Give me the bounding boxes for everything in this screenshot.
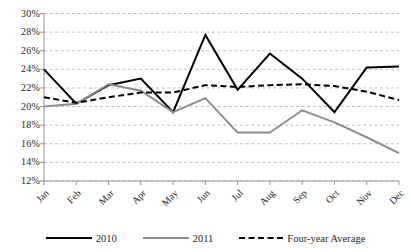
legend-swatch-four-year-average [239,237,283,239]
legend-item-2010: 2010 [46,233,117,244]
legend-item-four-year-average: Four-year Average [239,233,365,244]
chart-legend: 2010 2011 Four-year Average [0,229,411,247]
legend-swatch-2011 [143,237,189,239]
legend-swatch-2010 [46,237,92,239]
legend-label-2011: 2011 [193,233,214,244]
legend-label-2010: 2010 [96,233,117,244]
legend-label-four-year-average: Four-year Average [287,233,365,244]
legend-item-2011: 2011 [143,233,214,244]
x-axis-labels: JanFebMarAprMayJunJulAugSepOctNovDec [0,0,411,252]
chart-figure: 12%14%16%18%20%22%24%26%28%30% JanFebMar… [0,0,411,252]
